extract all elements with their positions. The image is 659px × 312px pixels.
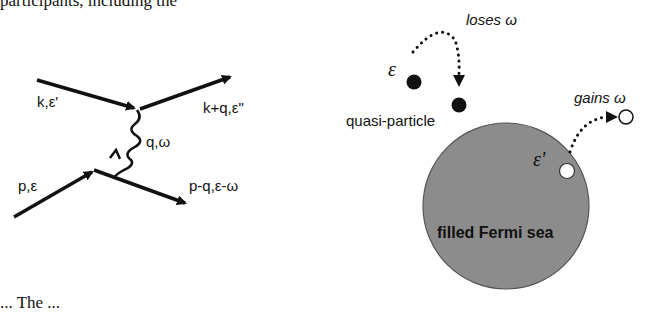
quasiparticle-label: quasi-particle [346,112,435,129]
gains-arrow-head-icon [606,111,618,123]
excited-electron-circle [619,110,633,124]
hole-circle [560,164,575,179]
fermi-sea-circle [423,123,589,289]
quasiparticle-final-dot [452,98,467,113]
loses-omega-label: loses ω [466,11,517,28]
feynman-diagram: k,ε' k+q,ε" q,ω p,ε p-q,ε-ω [14,77,244,217]
caption-fragment-bottom: ... The ... [0,293,60,312]
label-outgoing-top: k+q,ε" [203,99,244,116]
epsilon-label: ε [388,58,396,80]
label-boson: q,ω [146,133,171,150]
boson-wavy-line [114,110,140,178]
label-incoming-bottom: p,ε [18,177,38,194]
quasiparticle-initial-dot [407,75,422,90]
gains-dotted-arrow [570,117,606,152]
gains-omega-label: gains ω [574,89,626,106]
fermi-sea-diagram: filled Fermi sea loses ω ε quasi-particl… [346,11,633,289]
loses-dotted-arrow [413,32,459,74]
loses-arrow-head-icon [453,75,465,87]
boson-arrow-icon [110,150,120,159]
fermi-sea-label: filled Fermi sea [437,224,554,241]
outgoing-electron-bottom-line [94,170,185,203]
label-incoming-top: k,ε' [37,93,58,110]
label-outgoing-bottom: p-q,ε-ω [189,177,239,194]
epsilon-prime-label: ε' [533,148,546,170]
